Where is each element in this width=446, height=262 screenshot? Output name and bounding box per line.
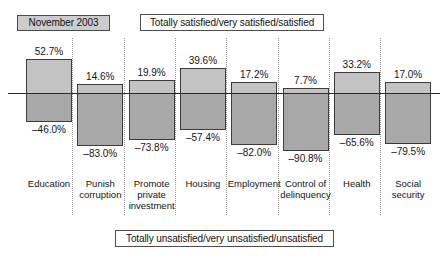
category-label: Education bbox=[22, 178, 76, 189]
positive-legend-caption: Totally satisfied/very satisfied/satisfi… bbox=[140, 14, 324, 31]
category-label-line: private bbox=[125, 189, 179, 200]
bar-positive bbox=[231, 82, 277, 93]
value-label-positive: 39.6% bbox=[172, 55, 234, 66]
category-label-line: corruption bbox=[73, 189, 127, 200]
category-label-line: Social bbox=[381, 178, 435, 189]
category-label: Control ofdelinquency bbox=[279, 178, 333, 200]
category-label: Housing bbox=[176, 178, 230, 189]
bar-positive bbox=[77, 84, 123, 93]
category-label-line: Punish bbox=[73, 178, 127, 189]
category-label-line: investment bbox=[125, 200, 179, 211]
bar-negative bbox=[231, 93, 277, 145]
value-label-positive: 52.7% bbox=[18, 46, 80, 57]
category-label-line: Education bbox=[22, 178, 76, 189]
zero-axis-line bbox=[8, 93, 440, 94]
bar-negative bbox=[334, 93, 380, 135]
bidirectional-bar-chart: November 2003 Totally satisfied/very sat… bbox=[0, 0, 446, 262]
value-label-positive: 7.7% bbox=[275, 75, 337, 86]
category-label-line: delinquency bbox=[279, 189, 333, 200]
category-label-line: Health bbox=[330, 178, 384, 189]
bar-positive bbox=[180, 68, 226, 93]
negative-legend-caption: Totally unsatisfied/very unsatisfied/uns… bbox=[115, 230, 334, 247]
value-label-positive: 19.9% bbox=[121, 67, 183, 78]
category-label-line: security bbox=[381, 189, 435, 200]
value-label-negative: –46.0% bbox=[18, 124, 80, 135]
category-label-line: Employment bbox=[227, 178, 281, 189]
category-label-line: Housing bbox=[176, 178, 230, 189]
value-label-negative: –90.8% bbox=[275, 153, 337, 164]
bar-negative bbox=[77, 93, 123, 146]
bar-positive bbox=[129, 80, 175, 93]
category-label: Employment bbox=[227, 178, 281, 189]
bar-positive bbox=[385, 82, 431, 93]
category-label: Punishcorruption bbox=[73, 178, 127, 200]
bar-negative bbox=[26, 93, 72, 122]
category-label-line: Control of bbox=[279, 178, 333, 189]
bar-negative bbox=[385, 93, 431, 144]
bar-positive bbox=[26, 59, 72, 93]
plot-area: 52.7%–46.0%14.6%–83.0%19.9%–73.8%39.6%–5… bbox=[0, 38, 446, 218]
value-label-positive: 17.0% bbox=[377, 69, 439, 80]
category-label: Promoteprivateinvestment bbox=[125, 178, 179, 211]
category-label: Socialsecurity bbox=[381, 178, 435, 200]
value-label-positive: 33.2% bbox=[326, 59, 388, 70]
value-label-negative: –73.8% bbox=[121, 142, 183, 153]
value-label-negative: –57.4% bbox=[172, 132, 234, 143]
bar-negative bbox=[180, 93, 226, 130]
category-label: Health bbox=[330, 178, 384, 189]
bar-negative bbox=[129, 93, 175, 140]
bar-negative bbox=[283, 93, 329, 151]
value-label-negative: –79.5% bbox=[377, 146, 439, 157]
date-badge: November 2003 bbox=[17, 15, 110, 31]
bar-positive bbox=[334, 72, 380, 93]
category-label-line: Promote bbox=[125, 178, 179, 189]
